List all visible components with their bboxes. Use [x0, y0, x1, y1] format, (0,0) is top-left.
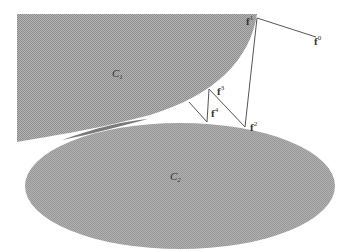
segment-f0-f1: [257, 18, 316, 37]
label-f3: f3: [217, 84, 225, 97]
region-c1: [17, 14, 257, 142]
region-c2: [25, 123, 335, 249]
segment-f3-f4: [207, 89, 209, 122]
segment-f4-next: [189, 102, 207, 122]
alternating-projection-diagram: C1 C2 f0 f1 f2 f3 f4: [0, 0, 352, 252]
label-f0: f0: [314, 34, 322, 47]
label-f4: f4: [211, 106, 219, 119]
